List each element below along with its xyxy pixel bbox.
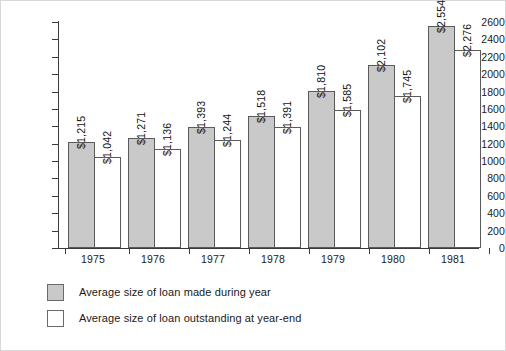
bar-value-label: $1,518 [256,90,266,123]
legend-label: Average size of loan outstanding at year… [79,312,302,324]
x-axis-tick [65,248,66,254]
bar-made-1980: $2,102 [368,65,395,248]
bar-value-label: $1,810 [316,64,326,97]
x-axis-label-1979: 1979 [303,253,363,265]
bar-value-label: $1,393 [196,101,206,134]
bar-made-1975: $1,215 [68,142,95,248]
bar-value-label: $1,244 [222,114,232,147]
bar-outstanding-1978: $1,391 [274,127,301,248]
bar-value-label: $1,271 [136,111,146,144]
x-axis-label-1980: 1980 [363,253,423,265]
bar-value-label: $2,276 [462,24,472,57]
bar-made-1977: $1,393 [188,127,215,248]
bar-made-1976: $1,271 [128,138,155,248]
bar-value-label: $2,554 [436,0,446,33]
legend-swatch-outstanding [47,310,64,327]
legend-swatch-made [47,284,64,301]
bar-outstanding-1977: $1,244 [214,140,241,248]
bar-value-label: $1,136 [162,123,172,156]
plot-area: $1,215$1,042$1,271$1,136$1,393$1,244$1,5… [58,22,479,248]
legend-label: Average size of loan made during year [79,286,271,298]
x-axis-label-1977: 1977 [183,253,243,265]
bar-value-label: $1,745 [402,70,412,103]
bar-made-1979: $1,810 [308,91,335,248]
bar-outstanding-1975: $1,042 [94,157,121,248]
x-axis-label-1981: 1981 [423,253,483,265]
bar-value-label: $1,585 [342,84,352,117]
bar-value-label: $1,042 [102,131,112,164]
y-axis-tick [52,248,59,249]
bar-made-1978: $1,518 [248,116,275,248]
x-axis-label-1978: 1978 [243,253,303,265]
bar-value-label: $2,102 [376,39,386,72]
x-axis-label-1975: 1975 [63,253,123,265]
bar-value-label: $1,391 [282,101,292,134]
bar-value-label: $1,215 [76,116,86,149]
x-axis-line [58,248,479,249]
x-axis-tick [489,248,490,254]
bar-outstanding-1981: $2,276 [454,50,481,248]
x-axis-label-1976: 1976 [123,253,183,265]
bar-made-1981: $2,554 [428,26,455,248]
bar-outstanding-1980: $1,745 [394,96,421,248]
bar-outstanding-1979: $1,585 [334,110,361,248]
bar-outstanding-1976: $1,136 [154,149,181,248]
chart-figure: 0200400600800100012001400160018002000220… [0,0,506,351]
